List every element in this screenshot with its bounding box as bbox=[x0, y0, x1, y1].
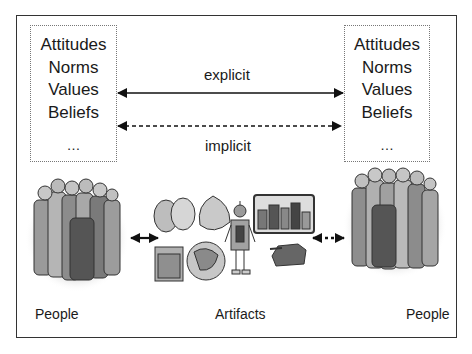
bird-figure-icon bbox=[199, 196, 230, 230]
right-people-group-illustration bbox=[343, 168, 447, 279]
diagram-graphics bbox=[0, 0, 472, 354]
left-people-label: People bbox=[35, 306, 79, 322]
left-people-group-illustration bbox=[25, 179, 129, 292]
globe-icon bbox=[187, 242, 225, 280]
artifacts-label: Artifacts bbox=[215, 306, 266, 322]
framed-picture-icon bbox=[155, 247, 183, 281]
artifacts-illustration bbox=[154, 195, 314, 281]
city-skyline-icon bbox=[254, 195, 314, 233]
theater-masks-icon bbox=[154, 198, 195, 232]
tank-icon bbox=[270, 244, 306, 266]
right-people-label: People bbox=[406, 306, 450, 322]
robot-icon bbox=[225, 201, 255, 274]
